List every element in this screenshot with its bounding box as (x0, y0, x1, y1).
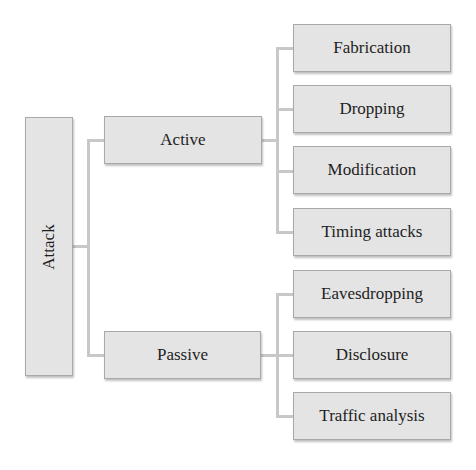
connector-to-fabrication (276, 47, 293, 50)
node-timing-attacks: Timing attacks (293, 208, 451, 256)
connector-to-modification (276, 170, 293, 173)
connector-to-passive (87, 354, 104, 357)
node-eavesdropping: Eavesdropping (293, 270, 451, 318)
connector-to-traffic-analysis (276, 415, 293, 418)
node-passive: Passive (104, 331, 261, 379)
connector-level1-vertical (87, 139, 90, 356)
node-traffic-analysis: Traffic analysis (293, 392, 451, 440)
node-disclosure: Disclosure (293, 331, 451, 379)
node-attack: Attack (25, 117, 73, 376)
node-dropping: Dropping (293, 85, 451, 133)
node-fabrication: Fabrication (293, 24, 451, 72)
connector-to-active (87, 139, 104, 142)
node-attack-label: Attack (39, 224, 59, 269)
connector-to-eavesdropping (276, 293, 293, 296)
node-modification: Modification (293, 146, 451, 194)
connector-active-vertical (276, 47, 279, 233)
connector-to-dropping (276, 108, 293, 111)
connector-to-timing-attacks (276, 231, 293, 234)
node-active: Active (104, 116, 262, 164)
connector-to-disclosure (276, 354, 293, 357)
